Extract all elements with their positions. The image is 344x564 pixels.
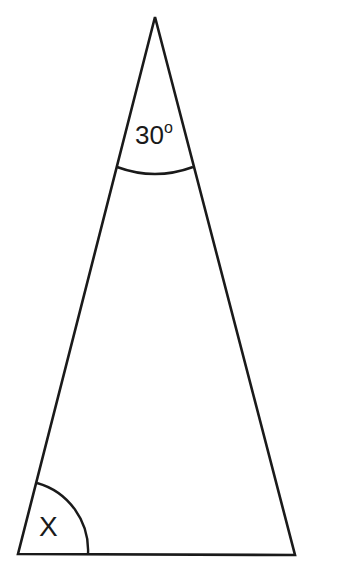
triangle-shape <box>18 17 295 555</box>
degree-symbol: o <box>164 119 173 136</box>
triangle-diagram <box>0 0 344 564</box>
apex-angle-value: 30 <box>135 120 164 150</box>
apex-angle-arc <box>117 167 193 174</box>
apex-angle-label: 30o <box>135 122 173 148</box>
base-angle-label: X <box>39 513 58 541</box>
